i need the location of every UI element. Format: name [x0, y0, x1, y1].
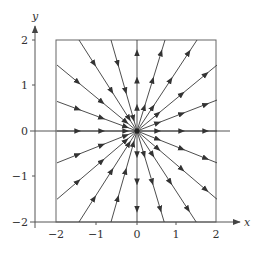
trajectory-line: [79, 131, 137, 222]
trajectory-line: [137, 131, 164, 222]
y-tick-label: 0: [21, 125, 28, 138]
trajectory-line: [137, 131, 196, 222]
trajectory-line: [137, 65, 217, 131]
y-tick-label: 1: [21, 79, 28, 92]
trajectory-line: [137, 131, 217, 163]
x-tick-label: −2: [48, 228, 64, 241]
trajectory-line: [111, 40, 137, 131]
y-tick-label: −1: [12, 170, 28, 183]
trajectory-line: [111, 131, 137, 222]
x-tick-label: 1: [173, 228, 180, 241]
trajectory-line: [57, 101, 137, 131]
trajectory-line: [57, 131, 137, 163]
trajectory-line: [57, 131, 137, 199]
trajectory-line: [137, 40, 165, 131]
y-axis-label: y: [31, 10, 39, 23]
trajectory-line: [137, 40, 197, 131]
trajectory-line: [57, 65, 137, 131]
trajectory-line: [137, 131, 217, 199]
trajectory-line: [79, 40, 137, 131]
y-tick-label: 2: [21, 34, 28, 47]
x-axis-label: x: [244, 216, 251, 229]
x-tick-label: 2: [213, 228, 220, 241]
y-tick-label: −2: [12, 216, 28, 229]
origin-node: [135, 129, 140, 134]
x-ticks: −2 −1 0 1 2: [48, 222, 220, 241]
x-tick-label: −1: [88, 228, 104, 241]
trajectory-line: [137, 100, 217, 131]
phase-portrait-diagram: 2 1 0 −1 −2 −2 −1 0 1 2 y x: [0, 0, 258, 253]
x-tick-label: 0: [134, 228, 141, 241]
